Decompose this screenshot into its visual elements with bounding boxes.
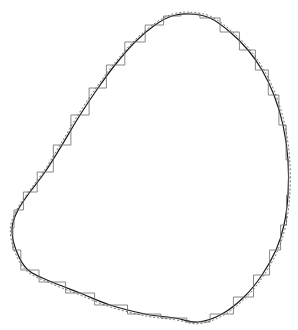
dashed-contour <box>10 12 290 324</box>
contour-diagram <box>0 0 298 330</box>
stair-step-approximation <box>12 14 289 322</box>
